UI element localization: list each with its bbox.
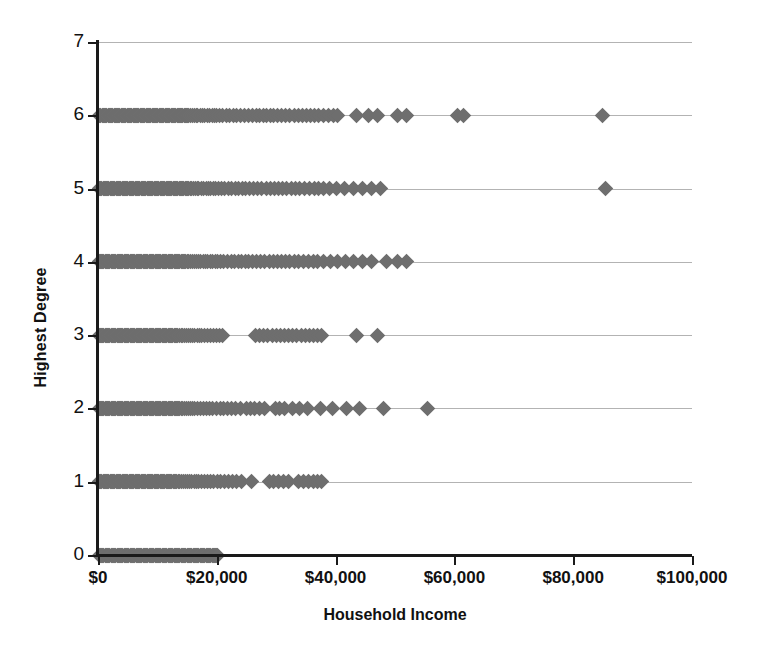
x-tick-mark xyxy=(336,556,338,565)
chart-figure: Highest Degree 01234567 $0$20,000$40,000… xyxy=(0,0,780,655)
y-tick-label: 7 xyxy=(58,31,84,50)
x-tick-mark xyxy=(98,556,100,565)
x-tick-label: $100,000 xyxy=(622,568,762,588)
data-point xyxy=(349,327,365,343)
plot-area xyxy=(98,42,692,555)
y-tick-label-container: 5 xyxy=(52,178,84,198)
y-tick-label: 1 xyxy=(58,471,84,490)
y-tick-mark xyxy=(88,555,96,557)
data-point xyxy=(420,401,436,417)
y-tick-label-container: 6 xyxy=(52,104,84,124)
data-point xyxy=(399,108,415,124)
x-axis-title: Household Income xyxy=(98,606,692,624)
data-point xyxy=(352,401,368,417)
y-tick-label: 0 xyxy=(58,544,84,563)
x-axis-line xyxy=(98,554,692,557)
y-tick-mark xyxy=(88,42,96,44)
y-tick-label-container: 7 xyxy=(52,31,84,51)
x-tick-mark xyxy=(692,556,694,565)
y-tick-label-container: 4 xyxy=(52,251,84,271)
y-tick-label: 2 xyxy=(58,397,84,416)
y-tick-mark xyxy=(88,408,96,410)
y-tick-label: 3 xyxy=(58,324,84,343)
y-tick-mark xyxy=(88,115,96,117)
y-tick-mark xyxy=(88,335,96,337)
x-tick-mark xyxy=(217,556,219,565)
data-point xyxy=(375,401,391,417)
y-tick-label: 6 xyxy=(58,104,84,123)
data-point xyxy=(598,181,614,197)
y-tick-label-container: 3 xyxy=(52,324,84,344)
y-tick-label: 5 xyxy=(58,178,84,197)
gridline xyxy=(98,42,692,43)
y-tick-label-container: 2 xyxy=(52,397,84,417)
y-axis-line xyxy=(96,40,99,557)
y-tick-label-container: 0 xyxy=(52,544,84,564)
data-point xyxy=(595,108,611,124)
x-tick-mark xyxy=(454,556,456,565)
data-point xyxy=(369,327,385,343)
y-axis-title-container: Highest Degree xyxy=(18,0,64,600)
data-point xyxy=(399,254,415,270)
y-tick-mark xyxy=(88,482,96,484)
data-point xyxy=(243,474,259,490)
y-tick-mark xyxy=(88,262,96,264)
y-tick-mark xyxy=(88,189,96,191)
x-tick-mark xyxy=(573,556,575,565)
y-tick-label-container: 1 xyxy=(52,471,84,491)
y-tick-label: 4 xyxy=(58,251,84,270)
data-point xyxy=(369,108,385,124)
